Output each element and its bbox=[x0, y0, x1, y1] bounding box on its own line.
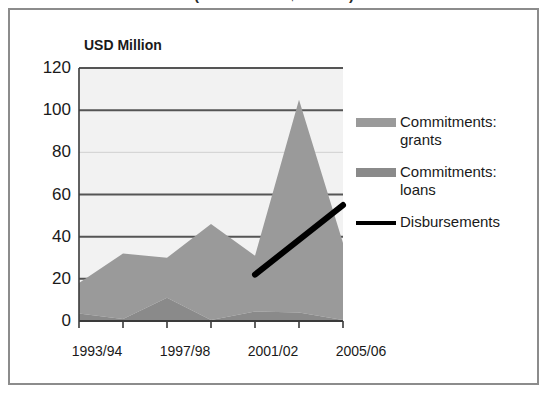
chart-title-clipped: (values in US$ million) bbox=[0, 0, 548, 7]
x-axis-tickmarks bbox=[79, 321, 343, 328]
legend-item-1: Commitments: grants bbox=[356, 113, 536, 149]
x-tick-label: 1997/98 bbox=[160, 343, 211, 359]
area-swatch-grants bbox=[356, 118, 396, 127]
y-tick-label-100: 100 bbox=[25, 100, 71, 120]
figure-frame: 020406080100120 1993/941997/982001/02200… bbox=[8, 8, 539, 385]
axis-unit-label: USD Million bbox=[84, 37, 162, 53]
y-tick-label-80: 80 bbox=[25, 142, 71, 162]
y-tick-label-0: 0 bbox=[25, 311, 71, 331]
legend-label: Commitments: loans bbox=[400, 163, 497, 199]
legend-item-2: Commitments: loans bbox=[356, 163, 536, 199]
legend-label: Commitments: grants bbox=[400, 113, 497, 149]
legend-label: Disbursements bbox=[400, 213, 500, 231]
y-tick-label-40: 40 bbox=[25, 227, 71, 247]
line-swatch-disbursements bbox=[356, 221, 396, 225]
legend-item-3: Disbursements bbox=[356, 213, 536, 231]
x-tick-label: 2001/02 bbox=[248, 343, 299, 359]
y-tick-label-60: 60 bbox=[25, 185, 71, 205]
area-swatch-loans bbox=[356, 168, 396, 177]
y-tick-label-20: 20 bbox=[25, 269, 71, 289]
x-tick-label: 2005/06 bbox=[336, 343, 387, 359]
x-tick-label: 1993/94 bbox=[72, 343, 123, 359]
chart-area: 020406080100120 1993/941997/982001/02200… bbox=[10, 10, 541, 387]
y-tick-label-120: 120 bbox=[25, 58, 71, 78]
chart-legend: Commitments: grantsCommitments: loansDis… bbox=[356, 113, 536, 245]
